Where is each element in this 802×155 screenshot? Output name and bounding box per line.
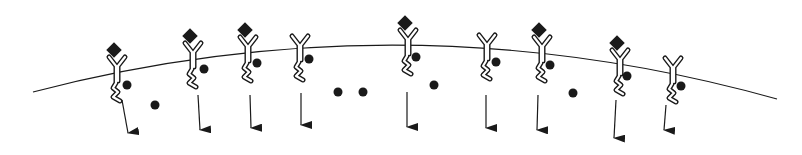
receptor (531, 22, 554, 130)
down-arrow-icon (664, 105, 666, 130)
signal-dot (305, 55, 314, 64)
down-arrow-icon (198, 95, 200, 130)
diagram-canvas (0, 0, 802, 155)
free-ligand-dots (151, 81, 578, 110)
receptor (397, 15, 420, 127)
down-arrow-icon (614, 100, 616, 138)
signal-dot (253, 59, 262, 68)
signal-dot (200, 65, 209, 74)
down-arrow-icon (537, 95, 538, 130)
signal-dot (677, 82, 686, 91)
receptor-group (106, 15, 685, 138)
free-ligand-dot (151, 101, 160, 110)
signal-dot (623, 72, 632, 81)
free-ligand-dot (569, 89, 578, 98)
signal-dot (123, 81, 132, 90)
signal-dot (546, 61, 555, 70)
receptor (292, 36, 314, 125)
free-ligand-dot (430, 81, 439, 90)
signal-dot (412, 53, 421, 62)
receptor (182, 28, 208, 130)
down-arrow-icon (250, 95, 251, 128)
down-arrow-icon (122, 100, 128, 133)
receptor (609, 35, 631, 138)
receptor (664, 58, 686, 130)
signal-dot (492, 58, 501, 67)
receptor (237, 22, 261, 128)
free-ligand-dot (334, 88, 343, 97)
free-ligand-dot (359, 88, 368, 97)
receptor (106, 42, 131, 133)
receptor-diagram (0, 0, 802, 155)
